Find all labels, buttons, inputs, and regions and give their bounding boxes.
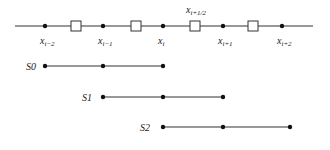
grid-node-dot-icon <box>101 24 105 28</box>
stencil-node-dot-icon <box>288 125 292 129</box>
grid-node-dot-icon <box>161 24 165 28</box>
stencil-label: S2 <box>140 122 150 133</box>
cell-face-box-icon <box>248 21 258 31</box>
stencil-node-dot-icon <box>161 95 165 99</box>
stencil-label: S1 <box>82 92 92 103</box>
stencil-diagram: xi+1/2 xi−2xi−1xixi+1xi+2 S0S1S2 <box>0 0 330 150</box>
stencil-node-dot-icon <box>221 125 225 129</box>
grid-node-dot-icon <box>43 24 47 28</box>
grid-node-dot-icon <box>280 24 284 28</box>
stencil-node-dot-icon <box>161 64 165 68</box>
stencil-s0: S0 <box>26 61 165 72</box>
stencil-s1: S1 <box>82 92 225 103</box>
stencil-label: S0 <box>26 61 36 72</box>
node-label: xi+2 <box>276 35 292 48</box>
stencil-s2: S2 <box>140 122 292 133</box>
stencil-group: S0S1S2 <box>26 61 292 133</box>
grid-node-dot-icon <box>221 24 225 28</box>
cell-face-box-icon <box>190 21 200 31</box>
stencil-node-dot-icon <box>43 64 47 68</box>
face-label: xi+1/2 <box>185 4 207 17</box>
node-label: xi−2 <box>39 35 55 48</box>
cell-face-box-icon <box>131 21 141 31</box>
node-label: xi <box>157 35 164 48</box>
cell-face-box-icon <box>71 21 81 31</box>
stencil-node-dot-icon <box>161 125 165 129</box>
node-label: xi+1 <box>217 35 233 48</box>
stencil-node-dot-icon <box>221 95 225 99</box>
stencil-node-dot-icon <box>101 64 105 68</box>
stencil-node-dot-icon <box>101 95 105 99</box>
node-label: xi−1 <box>97 35 113 48</box>
